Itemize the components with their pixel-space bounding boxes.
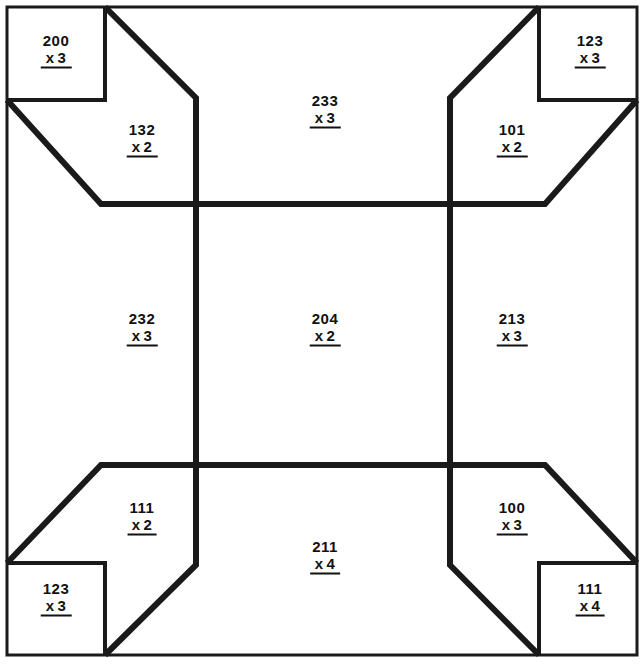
chamfer-bottom-left-upper bbox=[7, 465, 196, 563]
problem-cell-top-left: 132x2 bbox=[127, 121, 158, 158]
multiplier: 3 bbox=[144, 327, 153, 344]
problem-corner-top-right: 123x3 bbox=[575, 32, 606, 69]
multiplier-row: x3 bbox=[575, 49, 606, 69]
multiplicand: 232 bbox=[127, 310, 158, 327]
chamfer-top-left-upper bbox=[105, 7, 196, 204]
problem-cell-top-right: 101x2 bbox=[497, 121, 528, 158]
multiplier-row: x3 bbox=[127, 327, 158, 347]
multiplier-row: x2 bbox=[497, 138, 528, 158]
multiplier: 2 bbox=[144, 516, 153, 533]
multiplier: 3 bbox=[58, 49, 67, 66]
multiplicand: 211 bbox=[310, 538, 340, 555]
problem-cell-bottom-left: 111x2 bbox=[128, 499, 157, 536]
multiplicand: 213 bbox=[497, 310, 528, 327]
problem-cell-top-center: 233x3 bbox=[310, 92, 341, 129]
problem-cell-middle-center: 204x2 bbox=[310, 310, 341, 347]
chamfer-bottom-left-lower bbox=[105, 465, 196, 655]
multiplier: 2 bbox=[327, 327, 336, 344]
multiplicand: 123 bbox=[41, 580, 72, 597]
multiplier: 2 bbox=[144, 138, 153, 155]
multiplication-operator: x bbox=[502, 138, 511, 155]
worksheet-canvas: 200x3123x3123x3111x4132x2233x3101x2232x3… bbox=[0, 0, 644, 664]
multiplier-row: x4 bbox=[576, 597, 605, 617]
multiplicand: 100 bbox=[497, 499, 528, 516]
multiplication-operator: x bbox=[46, 49, 55, 66]
multiplication-operator: x bbox=[580, 597, 589, 614]
multiplicand: 200 bbox=[41, 32, 72, 49]
multiplicand: 204 bbox=[310, 310, 341, 327]
multiplication-operator: x bbox=[132, 516, 141, 533]
multiplicand: 111 bbox=[128, 499, 157, 516]
multiplier: 3 bbox=[327, 109, 336, 126]
multiplier: 3 bbox=[514, 327, 523, 344]
multiplier-row: x3 bbox=[497, 327, 528, 347]
multiplier-row: x2 bbox=[128, 516, 157, 536]
problem-corner-bottom-right: 111x4 bbox=[576, 580, 605, 617]
multiplier-row: x2 bbox=[127, 138, 158, 158]
multiplier-row: x2 bbox=[310, 327, 341, 347]
problem-corner-top-left: 200x3 bbox=[41, 32, 72, 69]
multiplier: 2 bbox=[514, 138, 523, 155]
multiplier: 4 bbox=[592, 597, 601, 614]
problem-cell-middle-left: 232x3 bbox=[127, 310, 158, 347]
multiplication-operator: x bbox=[502, 327, 511, 344]
multiplicand: 101 bbox=[497, 121, 528, 138]
problem-corner-bottom-left: 123x3 bbox=[41, 580, 72, 617]
problem-cell-middle-right: 213x3 bbox=[497, 310, 528, 347]
multiplication-operator: x bbox=[315, 109, 324, 126]
multiplication-operator: x bbox=[580, 49, 589, 66]
chamfer-top-left-lower bbox=[7, 100, 196, 204]
problem-cell-bottom-center: 211x4 bbox=[310, 538, 340, 575]
problem-cell-bottom-right: 100x3 bbox=[497, 499, 528, 536]
chamfer-bottom-right-upper bbox=[450, 465, 637, 563]
multiplier-row: x3 bbox=[41, 597, 72, 617]
multiplication-operator: x bbox=[315, 555, 324, 572]
multiplier: 3 bbox=[514, 516, 523, 533]
multiplication-operator: x bbox=[132, 138, 141, 155]
multiplication-operator: x bbox=[46, 597, 55, 614]
multiplicand: 123 bbox=[575, 32, 606, 49]
multiplier-row: x3 bbox=[41, 49, 72, 69]
chamfer-top-right-lower bbox=[450, 100, 637, 204]
multiplication-operator: x bbox=[132, 327, 141, 344]
multiplicand: 132 bbox=[127, 121, 158, 138]
multiplier: 3 bbox=[58, 597, 67, 614]
chamfer-bottom-right-lower bbox=[450, 465, 539, 655]
multiplicand: 233 bbox=[310, 92, 341, 109]
multiplier-row: x3 bbox=[310, 109, 341, 129]
multiplication-operator: x bbox=[315, 327, 324, 344]
multiplier: 4 bbox=[326, 555, 335, 572]
multiplier: 3 bbox=[592, 49, 601, 66]
multiplier-row: x4 bbox=[310, 555, 340, 575]
multiplication-operator: x bbox=[502, 516, 511, 533]
chamfer-top-right-upper bbox=[450, 7, 539, 204]
multiplicand: 111 bbox=[576, 580, 605, 597]
multiplier-row: x3 bbox=[497, 516, 528, 536]
